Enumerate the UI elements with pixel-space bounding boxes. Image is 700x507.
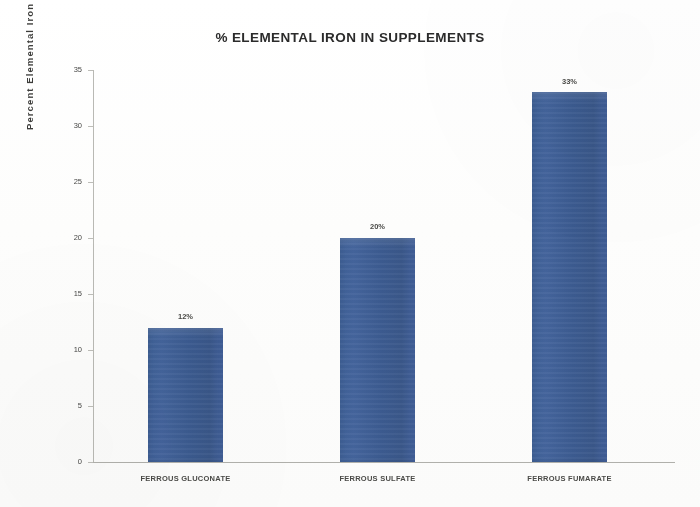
y-tick-label-25: 25 bbox=[56, 177, 82, 186]
x-category-label-ferrous-gluconate: FERROUS GLUCONATE bbox=[115, 474, 256, 483]
y-tick-0 bbox=[88, 462, 93, 463]
bar-ferrous-sulfate[interactable] bbox=[340, 238, 415, 462]
y-tick-5 bbox=[88, 406, 93, 407]
x-axis-line bbox=[93, 462, 675, 463]
plot-area: 35 30 25 20 15 10 5 0 12% 20% 33% FERROU… bbox=[93, 70, 675, 462]
y-tick-10 bbox=[88, 350, 93, 351]
bar-value-ferrous-fumarate: 33% bbox=[532, 77, 607, 86]
x-category-label-ferrous-sulfate: FERROUS SULFATE bbox=[307, 474, 448, 483]
y-tick-25 bbox=[88, 182, 93, 183]
y-tick-30 bbox=[88, 126, 93, 127]
y-tick-35 bbox=[88, 70, 93, 71]
x-category-label-ferrous-fumarate: FERROUS FUMARATE bbox=[499, 474, 640, 483]
bar-value-ferrous-gluconate: 12% bbox=[148, 312, 223, 321]
y-tick-label-20: 20 bbox=[56, 233, 82, 242]
bar-ferrous-gluconate[interactable] bbox=[148, 328, 223, 462]
y-tick-20 bbox=[88, 238, 93, 239]
y-tick-label-15: 15 bbox=[56, 289, 82, 298]
y-axis-title: Percent Elemental Iron (%) bbox=[24, 0, 35, 130]
y-tick-15 bbox=[88, 294, 93, 295]
y-axis-line bbox=[93, 70, 94, 462]
y-tick-label-5: 5 bbox=[56, 401, 82, 410]
y-tick-label-10: 10 bbox=[56, 345, 82, 354]
y-tick-label-35: 35 bbox=[56, 65, 82, 74]
y-tick-label-0: 0 bbox=[56, 457, 82, 466]
bar-ferrous-fumarate[interactable] bbox=[532, 92, 607, 462]
bar-value-ferrous-sulfate: 20% bbox=[340, 222, 415, 231]
chart-canvas: % ELEMENTAL IRON IN SUPPLEMENTS Percent … bbox=[0, 0, 700, 507]
y-tick-label-30: 30 bbox=[56, 121, 82, 130]
